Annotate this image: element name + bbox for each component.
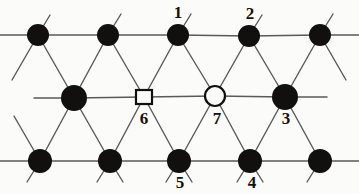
lattice-figure: 1267354 (0, 0, 359, 194)
node-label-2: 2 (246, 5, 255, 22)
lattice-node-layer (27, 24, 332, 173)
lattice-node-filled-b3 (167, 149, 191, 173)
node-label-4: 4 (248, 174, 257, 191)
lattice-canvas (0, 0, 359, 194)
lattice-node-filled-t4 (238, 25, 260, 47)
lattice-node-filled-t1 (27, 24, 49, 46)
lattice-node-filled-m1 (61, 85, 87, 111)
lattice-node-filled-b4 (238, 149, 262, 173)
lattice-node-filled-t3 (167, 24, 189, 46)
lattice-node-filled-b1 (28, 149, 52, 173)
lattice-node-filled-m4 (272, 84, 298, 110)
node-label-7: 7 (213, 110, 222, 127)
node-label-6: 6 (140, 110, 149, 127)
lattice-node-filled-b5 (308, 149, 332, 173)
node-label-5: 5 (176, 174, 185, 191)
node-label-1: 1 (174, 4, 183, 21)
node-label-3: 3 (282, 110, 291, 127)
lattice-node-filled-t5 (309, 24, 331, 46)
lattice-node-open-circle-m3 (205, 86, 225, 106)
lattice-node-square-m2 (136, 90, 152, 104)
lattice-node-filled-t2 (97, 24, 119, 46)
lattice-node-filled-b2 (98, 149, 122, 173)
